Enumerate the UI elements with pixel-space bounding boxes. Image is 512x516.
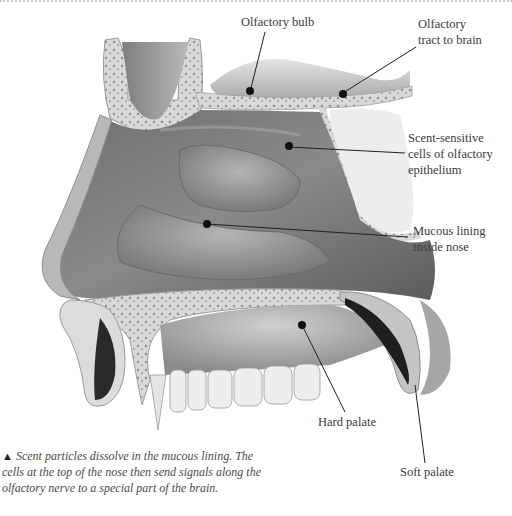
triangle-marker-icon: ▲ — [2, 450, 13, 462]
caption-text: Scent particles dissolve in the mucous l… — [2, 449, 261, 495]
label-scent-cells-line2: cells of olfactory — [408, 146, 493, 162]
teeth — [150, 364, 320, 430]
leader-soft-palate — [415, 385, 425, 463]
figure-caption: ▲Scent particles dissolve in the mucous … — [2, 448, 262, 496]
label-scent-cells-line3: epithelium — [408, 162, 493, 178]
oral-cavity — [160, 305, 385, 375]
label-scent-cells: Scent-sensitive cells of olfactory epith… — [408, 130, 493, 178]
label-mucous-lining-line2: inside nose — [413, 239, 486, 255]
label-olfactory-tract-line1: Olfactory — [418, 16, 482, 32]
label-olfactory-bulb-text: Olfactory bulb — [241, 15, 314, 29]
label-olfactory-tract: Olfactory tract to brain — [418, 16, 482, 48]
label-olfactory-tract-line2: tract to brain — [418, 32, 482, 48]
label-mucous-lining: Mucous lining inside nose — [413, 223, 486, 255]
label-mucous-lining-line1: Mucous lining — [413, 223, 486, 239]
label-soft-palate: Soft palate — [400, 464, 454, 480]
label-soft-palate-text: Soft palate — [400, 465, 454, 479]
label-olfactory-bulb: Olfactory bulb — [241, 14, 314, 30]
label-hard-palate: Hard palate — [318, 414, 376, 430]
olfactory-bulb-shape — [195, 59, 412, 110]
label-hard-palate-text: Hard palate — [318, 415, 376, 429]
label-scent-cells-line1: Scent-sensitive — [408, 130, 493, 146]
nasal-cavity-illustration — [0, 0, 512, 516]
